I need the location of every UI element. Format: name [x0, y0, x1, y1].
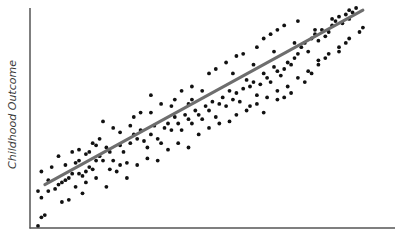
- data-point: [190, 122, 194, 126]
- data-point: [128, 124, 132, 128]
- data-point: [70, 150, 74, 154]
- data-point: [60, 181, 64, 185]
- data-point: [279, 74, 283, 78]
- data-point: [60, 200, 64, 204]
- data-point: [317, 63, 321, 67]
- data-point: [67, 176, 71, 180]
- data-point: [262, 72, 266, 76]
- data-point: [40, 170, 44, 174]
- data-point: [193, 109, 197, 113]
- data-point: [156, 159, 160, 163]
- data-point: [156, 137, 160, 141]
- data-point: [255, 102, 259, 106]
- data-point: [94, 159, 98, 163]
- data-point: [81, 191, 85, 195]
- data-point: [228, 89, 232, 93]
- data-point: [57, 154, 61, 158]
- data-point: [252, 80, 256, 84]
- data-point: [337, 15, 341, 19]
- data-point: [334, 19, 338, 23]
- data-point: [53, 187, 57, 191]
- data-point: [207, 72, 211, 76]
- data-point: [111, 126, 115, 130]
- data-point: [221, 96, 225, 100]
- data-point: [269, 80, 273, 84]
- data-point: [40, 196, 44, 200]
- data-point: [258, 82, 262, 86]
- data-point: [200, 89, 204, 93]
- data-point: [146, 146, 150, 150]
- data-point: [354, 6, 358, 10]
- data-point: [111, 159, 115, 163]
- data-point: [293, 56, 297, 60]
- data-point: [269, 32, 273, 36]
- data-point: [224, 104, 228, 108]
- data-point: [306, 50, 310, 54]
- data-point: [84, 152, 88, 156]
- data-point: [176, 122, 180, 126]
- data-point: [282, 96, 286, 100]
- data-point: [272, 65, 276, 69]
- data-point: [276, 28, 280, 32]
- data-point: [173, 98, 177, 102]
- data-point: [40, 215, 44, 219]
- data-point: [282, 24, 286, 28]
- data-point: [358, 30, 362, 34]
- data-points: [36, 6, 365, 228]
- data-point: [98, 137, 102, 141]
- data-point: [139, 111, 143, 115]
- data-point: [197, 113, 201, 117]
- data-point: [159, 102, 163, 106]
- data-point: [36, 189, 40, 193]
- data-point: [101, 159, 105, 163]
- data-point: [149, 93, 153, 97]
- data-point: [67, 198, 71, 202]
- data-point: [245, 109, 249, 113]
- data-point: [293, 41, 297, 45]
- data-point: [241, 87, 245, 91]
- data-point: [125, 176, 129, 180]
- data-point: [265, 96, 269, 100]
- data-point: [272, 50, 276, 54]
- data-point: [187, 117, 191, 121]
- data-point: [245, 78, 249, 82]
- data-point: [265, 76, 269, 80]
- plot-area: [0, 0, 400, 241]
- data-point: [207, 109, 211, 113]
- data-point: [84, 170, 88, 174]
- data-point: [142, 139, 146, 143]
- data-point: [87, 165, 91, 169]
- data-point: [43, 213, 47, 217]
- data-point: [252, 63, 256, 67]
- data-point: [190, 85, 194, 89]
- data-point: [262, 37, 266, 41]
- data-point: [255, 93, 259, 97]
- data-point: [122, 150, 126, 154]
- data-point: [94, 143, 98, 147]
- data-point: [149, 111, 153, 115]
- data-point: [241, 52, 245, 56]
- data-point: [235, 91, 239, 95]
- data-point: [211, 100, 215, 104]
- data-point: [200, 117, 204, 121]
- data-point: [166, 122, 170, 126]
- data-point: [87, 150, 91, 154]
- data-point: [77, 172, 81, 176]
- data-point: [310, 72, 314, 76]
- data-point: [77, 148, 81, 152]
- data-point: [149, 133, 153, 137]
- data-point: [327, 52, 331, 56]
- data-point: [276, 89, 280, 93]
- data-point: [289, 91, 293, 95]
- data-point: [337, 50, 341, 54]
- data-point: [159, 141, 163, 145]
- data-point: [180, 128, 184, 132]
- data-point: [77, 159, 81, 163]
- data-point: [347, 37, 351, 41]
- data-point: [317, 58, 321, 62]
- data-point: [64, 178, 68, 182]
- data-point: [317, 39, 321, 43]
- data-point: [176, 141, 180, 145]
- data-point: [125, 161, 129, 165]
- data-point: [170, 128, 174, 132]
